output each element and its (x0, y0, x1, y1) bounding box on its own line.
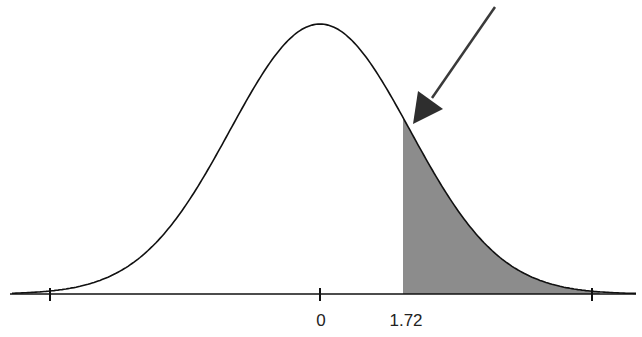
arrow-icon (413, 7, 495, 124)
x-label-zero: 0 (316, 311, 325, 331)
x-label-z: 1.72 (389, 311, 422, 331)
normal-curve (12, 24, 636, 293)
shaded-tail-area (403, 118, 600, 295)
normal-distribution-chart (0, 0, 642, 337)
